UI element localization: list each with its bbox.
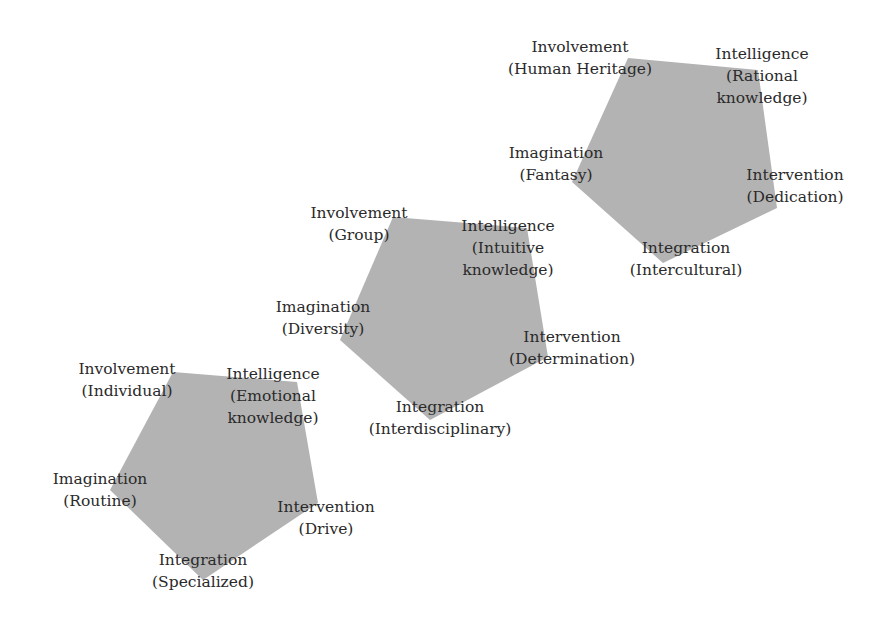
label-title: Intelligence (715, 43, 808, 65)
label-title: Imagination (276, 296, 371, 318)
label-sub: (Rational (715, 65, 808, 87)
label-imagination-fantasy: Imagination (Fantasy) (509, 142, 604, 186)
label-sub: (Emotional (226, 385, 319, 407)
label-sub: (Specialized) (152, 571, 254, 593)
label-title: Imagination (53, 468, 148, 490)
label-imagination-diversity: Imagination (Diversity) (276, 296, 371, 340)
label-title: Involvement (508, 36, 652, 58)
label-intelligence-rational: Intelligence (Rational knowledge) (715, 43, 808, 109)
label-involvement-individual: Involvement (Individual) (78, 358, 175, 402)
label-title: Intervention (509, 326, 635, 348)
label-imagination-routine: Imagination (Routine) (53, 468, 148, 512)
label-sub: (Dedication) (746, 186, 843, 208)
label-sub: (Drive) (277, 518, 374, 540)
label-integration-interdisciplinary: Integration (Interdisciplinary) (369, 396, 512, 440)
label-intelligence-emotional: Intelligence (Emotional knowledge) (226, 363, 319, 429)
label-intervention-drive: Intervention (Drive) (277, 496, 374, 540)
label-sub: (Routine) (53, 490, 148, 512)
label-involvement-group: Involvement (Group) (310, 202, 407, 246)
label-title: Intelligence (461, 215, 554, 237)
five-i-pentagon-diagram: Involvement (Individual) Intelligence (E… (0, 0, 889, 632)
label-title: Integration (369, 396, 512, 418)
label-integration-intercultural: Integration (Intercultural) (630, 237, 742, 281)
label-title: Integration (630, 237, 742, 259)
label-intervention-determination: Intervention (Determination) (509, 326, 635, 370)
label-title: Integration (152, 549, 254, 571)
label-title: Involvement (78, 358, 175, 380)
label-sub: knowledge) (715, 87, 808, 109)
label-sub: (Interdisciplinary) (369, 418, 512, 440)
label-sub: (Individual) (78, 380, 175, 402)
label-title: Involvement (310, 202, 407, 224)
label-intervention-dedication: Intervention (Dedication) (746, 164, 843, 208)
label-title: Imagination (509, 142, 604, 164)
label-sub: (Diversity) (276, 318, 371, 340)
label-title: Intervention (746, 164, 843, 186)
label-title: Intervention (277, 496, 374, 518)
label-sub: (Human Heritage) (508, 58, 652, 80)
label-sub: (Determination) (509, 348, 635, 370)
label-involvement-human-heritage: Involvement (Human Heritage) (508, 36, 652, 80)
label-sub: knowledge) (461, 259, 554, 281)
label-integration-specialized: Integration (Specialized) (152, 549, 254, 593)
label-sub: (Intercultural) (630, 259, 742, 281)
label-title: Intelligence (226, 363, 319, 385)
label-sub: (Fantasy) (509, 164, 604, 186)
label-intelligence-intuitive: Intelligence (Intuitive knowledge) (461, 215, 554, 281)
label-sub: knowledge) (226, 407, 319, 429)
label-sub: (Group) (310, 224, 407, 246)
label-sub: (Intuitive (461, 237, 554, 259)
